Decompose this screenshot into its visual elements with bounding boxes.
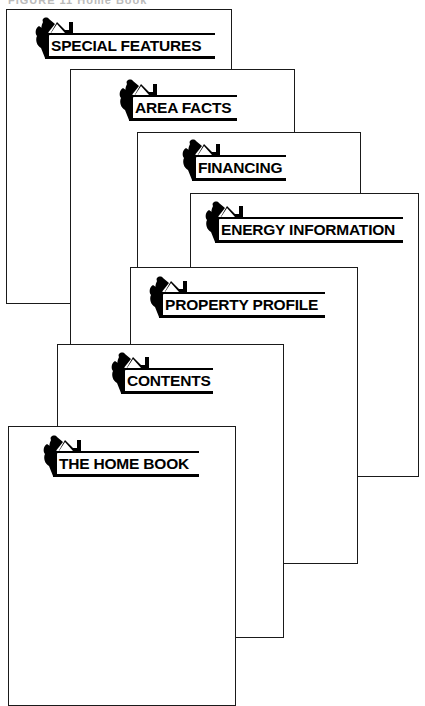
page-the-home-book: THE HOME BOOK xyxy=(8,426,236,706)
section-header: CONTENTS xyxy=(111,351,231,395)
section-header: THE HOME BOOK xyxy=(43,434,213,478)
section-title: AREA FACTS xyxy=(135,99,231,117)
section-title: PROPERTY PROFILE xyxy=(165,296,318,314)
section-header: SPECIAL FEATURES xyxy=(35,16,215,60)
section-header: AREA FACTS xyxy=(119,78,249,122)
figure-caption: FIGURE 11 Home Book xyxy=(8,0,147,6)
section-header: PROPERTY PROFILE xyxy=(149,275,329,319)
section-title: ENERGY INFORMATION xyxy=(221,221,395,239)
section-title: SPECIAL FEATURES xyxy=(51,37,201,55)
section-title: FINANCING xyxy=(198,159,282,177)
section-title: CONTENTS xyxy=(127,372,211,390)
section-title: THE HOME BOOK xyxy=(59,455,189,473)
section-header: ENERGY INFORMATION xyxy=(205,200,405,244)
section-header: FINANCING xyxy=(182,138,302,182)
